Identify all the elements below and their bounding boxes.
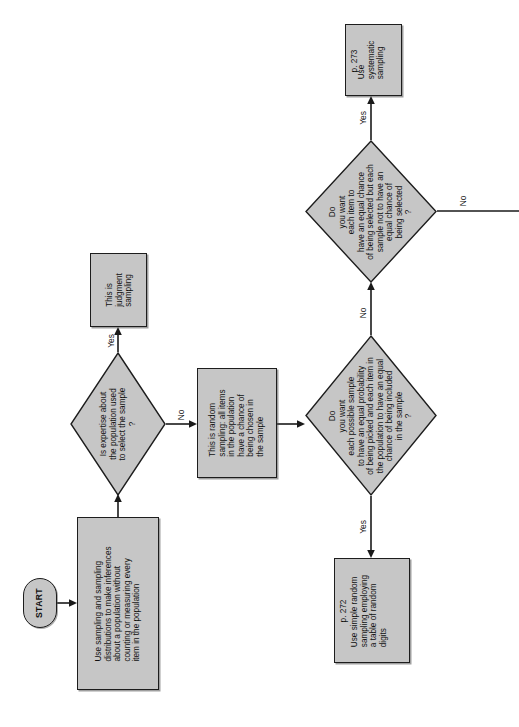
random-sampling-note-label: This is random sampling: all items in th… <box>208 389 265 456</box>
intro-label: Use sampling and sampling distributions … <box>94 546 142 661</box>
decision-systematic[interactable]: Do you want each item to have an equal c… <box>305 140 437 283</box>
start-terminator[interactable]: START <box>23 578 57 628</box>
judgment-sampling-box[interactable]: This is judgment sampling <box>90 253 147 327</box>
intro-process-box[interactable]: Use sampling and sampling distributions … <box>77 517 159 690</box>
edge-label-systematic-no: No <box>458 196 468 207</box>
edge-label-simple-random-yes: Yes <box>358 520 368 534</box>
systematic-page-ref: p. 273 <box>350 50 359 73</box>
systematic-sampling-box[interactable]: Use systematic sampling p. 273 <box>345 24 402 96</box>
decision-expertise-label: Is expertise about the population used t… <box>99 388 137 461</box>
decision-systematic-label: Do you want each item to have an equal c… <box>328 164 414 260</box>
edge-label-expertise-no: No <box>176 410 186 421</box>
simple-random-sampling-label: Use simple random sampling employing a t… <box>350 574 388 646</box>
edge-label-simple-random-no: No <box>358 308 368 319</box>
edge-label-systematic-yes: Yes <box>358 111 368 125</box>
flowchart-canvas: START Use sampling and sampling distribu… <box>0 0 519 727</box>
judgment-sampling-label: This is judgment sampling <box>104 273 133 307</box>
simple-random-sampling-box[interactable]: Use simple random sampling employing a t… <box>334 558 410 663</box>
start-label: START <box>35 588 45 618</box>
systematic-sampling-label: Use systematic sampling <box>357 41 386 80</box>
decision-expertise[interactable]: Is expertise about the population used t… <box>70 352 166 496</box>
decision-simple-random-label: Do you want each possible sample to have… <box>328 357 414 474</box>
decision-simple-random[interactable]: Do you want each possible sample to have… <box>305 335 437 496</box>
simple-random-page-ref: p. 272 <box>339 600 348 623</box>
edge-label-expertise-yes: Yes <box>106 334 116 348</box>
random-sampling-note-box[interactable]: This is random sampling: all items in th… <box>197 368 277 478</box>
